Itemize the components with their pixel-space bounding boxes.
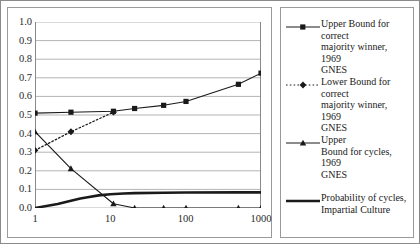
data-point-marker xyxy=(132,106,137,111)
data-point-marker xyxy=(161,103,166,108)
series-line xyxy=(35,112,113,150)
legend-key-diamond-icon xyxy=(285,77,321,89)
x-tick-label: 10 xyxy=(105,214,116,225)
y-tick-label: 0.8 xyxy=(19,54,32,65)
legend-entry: Upper Bound for cycles, 1969 GNES xyxy=(285,134,409,180)
legend-panel: Upper Bound for correct majority winner,… xyxy=(280,7,414,238)
legend-label: Lower Bound for correct majority winner,… xyxy=(321,76,409,134)
legend-key-triangle-icon xyxy=(285,135,321,147)
legend-key-none-icon xyxy=(285,193,321,205)
y-tick-label: 0.9 xyxy=(19,35,32,46)
legend-label: Upper Bound for cycles, 1969 GNES xyxy=(321,134,409,180)
legend-marker xyxy=(300,24,305,29)
y-tick-label: 0.4 xyxy=(19,128,32,139)
data-point-marker xyxy=(35,129,38,135)
legend-key-square-icon xyxy=(285,19,321,31)
plot-canvas xyxy=(35,22,261,208)
series-line xyxy=(35,192,261,208)
legend-entry: Probability of cycles, Impartial Culture xyxy=(285,192,409,215)
plot-panel: 0.00.10.20.30.40.50.60.70.80.91.0 110100… xyxy=(7,7,272,238)
data-point-marker xyxy=(236,82,241,87)
x-tick-label: 1000 xyxy=(251,214,272,225)
y-tick-label: 0.2 xyxy=(19,166,32,177)
x-tick-label: 1 xyxy=(32,214,37,225)
y-tick-label: 0.3 xyxy=(19,147,32,158)
y-tick-label: 0.5 xyxy=(19,110,32,121)
data-point-marker xyxy=(258,71,261,76)
plot-area: 0.00.10.20.30.40.50.60.70.80.91.0 110100… xyxy=(35,22,261,208)
y-tick-label: 1.0 xyxy=(19,17,32,28)
data-point-marker xyxy=(35,111,38,116)
legend-marker xyxy=(300,82,307,89)
chart-figure: 0.00.10.20.30.40.50.60.70.80.91.0 110100… xyxy=(0,0,420,244)
series-line xyxy=(35,73,261,113)
legend-label: Probability of cycles, Impartial Culture xyxy=(321,192,409,215)
data-point-marker xyxy=(183,99,188,104)
data-point-marker xyxy=(35,147,38,154)
y-tick-label: 0.6 xyxy=(19,91,32,102)
y-tick-label: 0.1 xyxy=(19,184,32,195)
legend-entry: Upper Bound for correct majority winner,… xyxy=(285,18,409,76)
legend-label: Upper Bound for correct majority winner,… xyxy=(321,18,409,76)
legend-entry: Lower Bound for correct majority winner,… xyxy=(285,76,409,134)
y-tick-label: 0.0 xyxy=(19,203,32,214)
x-tick-label: 100 xyxy=(178,214,194,225)
data-point-marker xyxy=(68,110,73,115)
data-point-marker xyxy=(68,128,75,135)
y-tick-label: 0.7 xyxy=(19,73,32,84)
